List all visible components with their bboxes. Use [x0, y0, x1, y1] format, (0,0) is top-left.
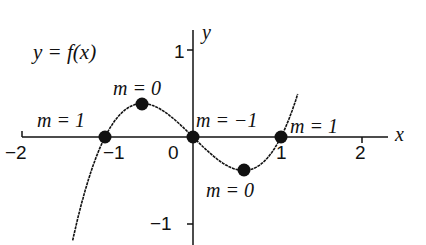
point-local-min — [238, 164, 251, 177]
function-curve — [73, 94, 298, 241]
annotation-origin: m = −1 — [196, 110, 257, 130]
function-title: y = f(x) — [33, 42, 96, 63]
annotation-left-zero: m = 1 — [37, 110, 85, 130]
x-tick-label: 2 — [355, 143, 366, 162]
annotation-local-min: m = 0 — [206, 180, 254, 200]
point-origin — [187, 131, 200, 144]
x-axis-label: x — [395, 124, 404, 144]
y-tick-label: −1 — [150, 214, 172, 233]
point-local-max — [136, 98, 149, 111]
x-tick-label: 0 — [168, 143, 179, 162]
y-axis-label: y — [202, 22, 211, 42]
annotation-local-max: m = 0 — [113, 78, 161, 98]
y-tick-label: 1 — [174, 42, 185, 61]
x-tick-label: −1 — [103, 143, 125, 162]
annotation-right-zero: m = 1 — [290, 116, 338, 136]
x-tick-label: −2 — [5, 143, 27, 162]
x-tick-label: 1 — [276, 143, 287, 162]
function-graph: y = f(x) y x −2 −1 0 1 2 1 −1 m = 1 m = … — [0, 0, 426, 245]
